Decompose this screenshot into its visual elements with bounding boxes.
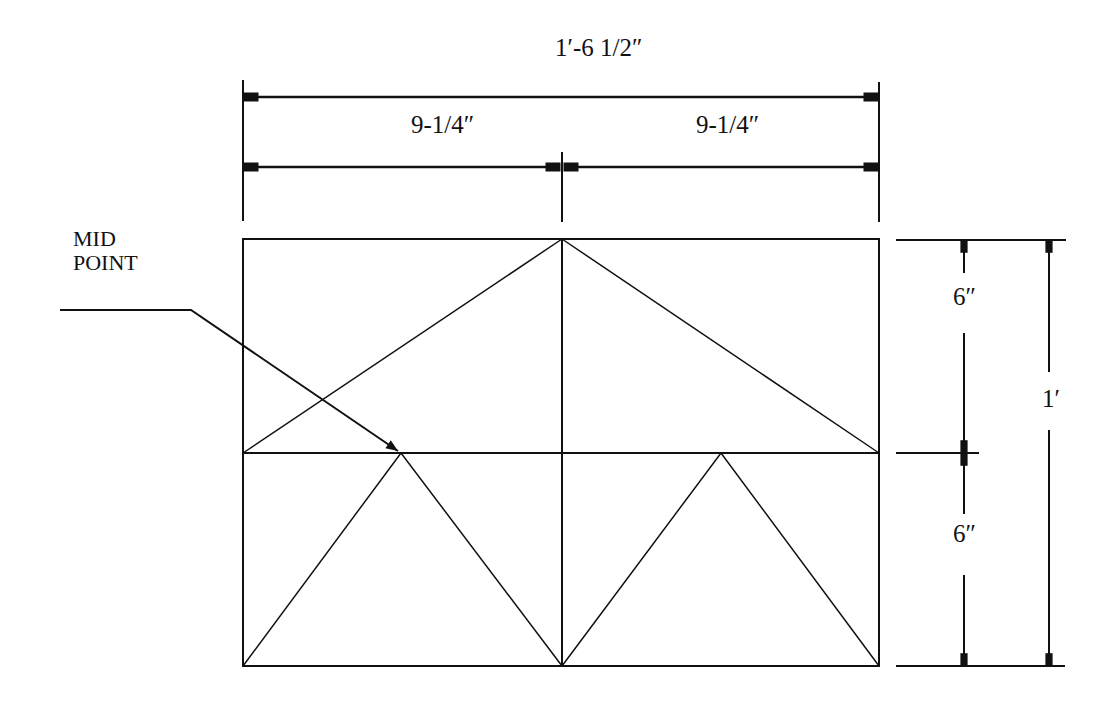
midpoint-leader-line (60, 310, 398, 451)
upper-right-diagonal (562, 239, 879, 453)
midpoint-note-line2: POINT (73, 251, 138, 275)
right-extension-lines (896, 240, 1066, 666)
upper-left-diagonal (243, 239, 562, 453)
lower-right-triangle (562, 453, 879, 666)
midpoint-note: MID POINT (73, 227, 138, 275)
upper-height-label: 6″ (953, 284, 976, 309)
panel-drawing (0, 0, 1120, 712)
left-half-width-label: 9-1/4″ (411, 112, 474, 137)
overall-width-label: 1′-6 1/2″ (555, 35, 642, 60)
overall-height-label: 1′ (1042, 386, 1060, 411)
panel-outline (242, 239, 880, 666)
midpoint-note-line1: MID (73, 227, 138, 251)
lower-left-triangle (243, 453, 562, 666)
right-half-width-label: 9-1/4″ (696, 112, 759, 137)
top-extension-lines (243, 80, 879, 222)
lower-height-label: 6″ (953, 521, 976, 546)
